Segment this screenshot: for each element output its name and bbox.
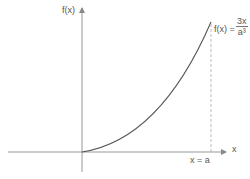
function-label: f(x) = (214, 24, 235, 34)
fraction-denominator: a³ (236, 27, 248, 37)
fraction-numerator: 3x (236, 16, 248, 27)
diagram-canvas (0, 0, 250, 179)
x-axis-label: x (232, 144, 237, 154)
y-axis-label: f(x) (62, 5, 75, 15)
function-fraction: 3x a³ (236, 16, 248, 37)
function-curve (82, 22, 211, 152)
marker-label: x = a (190, 155, 210, 165)
